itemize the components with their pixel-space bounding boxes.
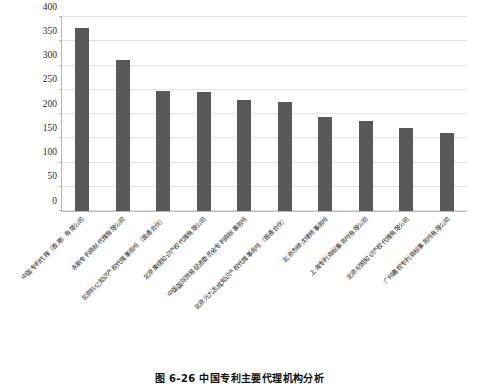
x-axis-labels: 中国专利代理（香港）有限公司永新专利商标代理有限公司北京科亿知识产权代理事务所（… [61, 213, 467, 358]
bar [116, 60, 130, 211]
x-label-slot: 北京纪凯知识产权代理有限公司 [386, 213, 427, 358]
y-axis-tick-label: 300 [43, 51, 57, 61]
x-axis-tick-label: 中国专利代理（香港）有限公司 [21, 216, 86, 281]
bar-slot [305, 17, 346, 211]
y-axis-tick-label: 50 [48, 173, 58, 183]
chart-plot-area: 050100150200250300350400 [61, 17, 467, 212]
bar-slot [62, 17, 103, 211]
bar [359, 121, 373, 211]
x-label-slot: 北京市柳沈律师事务所 [305, 213, 346, 358]
bar-slot [103, 17, 144, 211]
bar-slot [184, 17, 225, 211]
y-axis-tick-label: 150 [43, 124, 57, 134]
bar [156, 91, 170, 211]
figure-caption: 图 6-26 中国专利主要代理机构分析 [0, 370, 479, 385]
y-axis-tick-label: 0 [52, 197, 57, 207]
x-label-slot: 上海专利商标事务所有限公司 [345, 213, 386, 358]
y-axis-tick-label: 100 [43, 148, 57, 158]
bar-slot [143, 17, 184, 211]
bar [197, 92, 211, 211]
y-axis-tick-label: 350 [43, 27, 57, 37]
bars-group [62, 17, 467, 211]
x-label-slot: 永新专利商标代理有限公司 [102, 213, 143, 358]
bar-slot [224, 17, 265, 211]
y-axis-tick-label: 250 [43, 76, 57, 86]
bar [318, 117, 332, 211]
bar-slot [386, 17, 427, 211]
bar-slot [427, 17, 468, 211]
bar [399, 128, 413, 211]
x-label-slot: 北京元九志成知识产权代理事务所（普通合伙） [264, 213, 305, 358]
bar [440, 133, 454, 211]
figure-container: 050100150200250300350400 中国专利代理（香港）有限公司永… [0, 0, 479, 389]
x-label-slot: 广州嘉权专利商标事务所有限公司 [426, 213, 467, 358]
y-axis-tick-label: 200 [43, 100, 57, 110]
bar-slot [265, 17, 306, 211]
bar [237, 100, 251, 211]
bar [278, 102, 292, 211]
x-label-slot: 中国国际贸易促进委员会专利商标事务所 [223, 213, 264, 358]
bar-slot [346, 17, 387, 211]
y-axis-tick-label: 400 [43, 3, 57, 13]
bar [75, 28, 89, 211]
